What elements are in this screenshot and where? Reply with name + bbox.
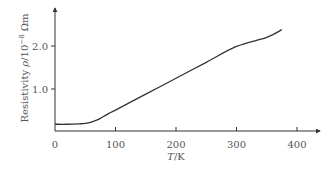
x-tick-label: 0 [52,139,58,150]
resistivity-chart: 1.02.0 0100200300400 T/K Resistivity ρ/1… [0,0,330,173]
x-axis-label: T/K [167,151,185,162]
y-tick-label: 1.0 [32,84,48,95]
y-axis-label: Resistivity ρ/10−8 Ωm [18,13,30,123]
x-tick-label: 100 [106,139,125,150]
y-tick-label: 2.0 [32,41,48,52]
x-tick-label: 300 [227,139,246,150]
resistivity-curve [55,30,282,125]
y-axis: 1.02.0 [32,8,55,131]
x-tick-label: 200 [166,139,185,150]
x-axis: 0100200300400 [52,127,320,150]
x-tick-label: 400 [287,139,306,150]
